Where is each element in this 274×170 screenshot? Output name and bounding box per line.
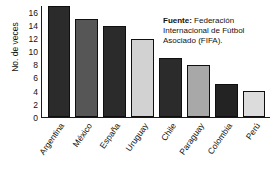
bar-slot <box>101 6 129 117</box>
y-tick-label: 6 <box>20 74 38 82</box>
bar-slot <box>45 6 73 117</box>
bar <box>159 58 182 117</box>
x-label-slot: Perú <box>240 119 268 169</box>
y-tick-label: 14 <box>20 22 38 30</box>
x-tick-label: México <box>71 121 95 149</box>
bar <box>48 6 71 117</box>
source-note: Fuente: Federación Internacional de Fútb… <box>163 16 271 46</box>
y-axis-ticks: 1614121086420 <box>20 6 38 121</box>
x-tick-label: Perú <box>244 121 262 141</box>
bar <box>75 19 98 117</box>
bar <box>215 84 238 117</box>
y-tick-label: 4 <box>20 88 38 96</box>
y-axis-title: No. de veces <box>10 2 20 92</box>
y-tick-label: 16 <box>20 9 38 17</box>
x-label-slot: Colombia <box>212 119 240 169</box>
y-tick-label: 12 <box>20 35 38 43</box>
x-tick-label: Chile <box>159 121 178 143</box>
bar-chart: No. de veces 1614121086420 ArgentinaMéxi… <box>0 0 274 170</box>
x-tick-label: España <box>97 121 122 150</box>
x-label-slot: Uruguay <box>128 119 156 169</box>
x-tick-label: Argentina <box>37 121 66 157</box>
y-tick-label: 8 <box>20 61 38 69</box>
bar-slot <box>129 6 157 117</box>
x-axis-labels: ArgentinaMéxicoEspañaUruguayChileParagua… <box>42 119 270 169</box>
x-label-slot: España <box>100 119 128 169</box>
y-tick-label: 0 <box>20 114 38 122</box>
x-tick-label: Uruguay <box>124 121 151 153</box>
x-label-slot: Paraguay <box>184 119 212 169</box>
bar-slot <box>73 6 101 117</box>
x-label-slot: México <box>72 119 100 169</box>
x-label-slot: Argentina <box>44 119 72 169</box>
bar <box>103 26 126 117</box>
bar <box>131 39 154 117</box>
y-tick-label: 10 <box>20 48 38 56</box>
bar <box>187 65 210 117</box>
x-label-slot: Chile <box>156 119 184 169</box>
source-label: Fuente: <box>163 16 192 25</box>
bar <box>243 91 266 117</box>
y-tick-label: 2 <box>20 101 38 109</box>
